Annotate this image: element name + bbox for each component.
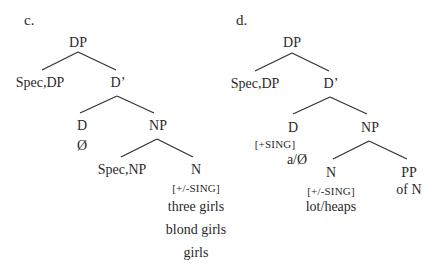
n-value: lot/heaps	[306, 200, 357, 214]
node-d: D	[288, 121, 298, 135]
d-value: a/Ø	[287, 153, 307, 167]
node-d-bar: D’	[111, 76, 126, 90]
node-d-bar: D’	[324, 77, 339, 91]
node-np: NP	[149, 119, 167, 133]
node-dp: DP	[69, 36, 87, 50]
n-example: blond girls	[166, 223, 226, 237]
node-n: N	[326, 166, 336, 180]
tree-label-d: d.	[236, 13, 247, 28]
node-spec-np: Spec,NP	[98, 163, 147, 177]
pp-value: of N	[396, 183, 421, 197]
node-d: D	[77, 119, 87, 133]
n-feature: [+/-SING]	[307, 184, 355, 198]
n-example: three girls	[168, 200, 224, 214]
n-example: girls	[184, 246, 209, 260]
node-spec-dp: Spec,DP	[231, 77, 280, 91]
node-pp: PP	[401, 166, 417, 180]
node-spec-dp: Spec,DP	[16, 76, 65, 90]
tree-label-c: c.	[24, 13, 34, 28]
node-n: N	[191, 163, 201, 177]
node-dp: DP	[283, 36, 301, 50]
node-d-value: Ø	[77, 139, 87, 153]
n-feature: [+/-SING]	[172, 181, 220, 195]
d-feature: [+SING]	[255, 137, 296, 151]
node-np: NP	[361, 121, 379, 135]
